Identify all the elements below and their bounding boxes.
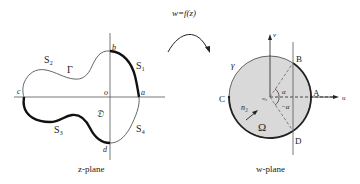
z-plane: S₂ S₁ S₃ S₄ Γ 𝔇 o b a c d z-plane bbox=[14, 33, 165, 174]
v-axis-arrow-icon bbox=[268, 34, 272, 40]
segment-s4 bbox=[110, 97, 139, 143]
label-gamma-circle: γ bbox=[231, 60, 235, 70]
arrow-head-icon bbox=[205, 46, 210, 53]
label-point-B: B bbox=[296, 54, 302, 64]
mapping-arrow: w=f(z) bbox=[168, 8, 210, 53]
conformal-map-diagram: S₂ S₁ S₃ S₄ Γ 𝔇 o b a c d z-plane w=f(z) bbox=[0, 0, 360, 184]
w-plane: v u γ B A C D w₀ n₃ α −α Ω w-plane bbox=[219, 31, 346, 174]
label-v-axis: v bbox=[273, 31, 277, 39]
label-normal-n3: n₃ bbox=[241, 103, 248, 112]
label-point-d: d bbox=[103, 145, 108, 154]
label-s1: S₁ bbox=[136, 60, 145, 71]
label-point-a: a bbox=[141, 88, 145, 97]
label-point-D: D bbox=[295, 136, 302, 146]
label-point-b: b bbox=[112, 43, 116, 52]
label-s3: S₃ bbox=[54, 124, 63, 135]
w-plane-caption: w-plane bbox=[256, 164, 285, 174]
label-angle-minus-alpha: −α bbox=[281, 103, 290, 111]
label-origin: o bbox=[104, 88, 108, 97]
label-point-C: C bbox=[219, 94, 225, 104]
label-s2: S₂ bbox=[44, 54, 53, 65]
curved-arrow bbox=[168, 34, 208, 52]
u-axis-arrow-icon bbox=[333, 95, 339, 99]
point-c-marker bbox=[228, 96, 230, 98]
label-point-c: c bbox=[17, 87, 21, 96]
label-s4: S₄ bbox=[136, 123, 146, 134]
label-u-axis: u bbox=[342, 94, 346, 102]
label-region-d: 𝔇 bbox=[96, 108, 104, 119]
point-a-marker bbox=[310, 96, 312, 98]
label-point-A: A bbox=[313, 88, 320, 98]
label-gamma-boundary: Γ bbox=[67, 64, 73, 75]
segment-s1 bbox=[110, 51, 139, 97]
label-angle-alpha: α bbox=[282, 88, 286, 96]
label-center-w0: w₀ bbox=[262, 96, 267, 101]
z-plane-caption: z-plane bbox=[78, 164, 104, 174]
mapping-label: w=f(z) bbox=[172, 8, 196, 18]
label-region-omega: Ω bbox=[258, 121, 266, 133]
segment-s3 bbox=[24, 97, 110, 143]
